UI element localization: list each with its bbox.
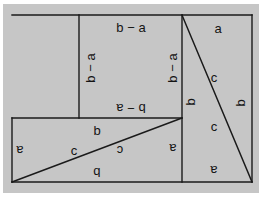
label-right-top-a: a — [214, 22, 221, 35]
label-right-bottom-a-text: a — [210, 164, 217, 177]
label-lower-left-a-text: a — [16, 144, 23, 157]
label-right-c-lower: c — [211, 120, 218, 133]
label-mid-b: b — [184, 98, 197, 105]
label-upper-right-b-minus-a: b − a — [166, 53, 179, 82]
label-right-c-upper-text: c — [211, 71, 218, 84]
label-lower-c-right: c — [117, 144, 124, 157]
label-far-right-b: b — [234, 99, 247, 106]
label-upper-right-b-minus-a-text: b − a — [166, 53, 179, 82]
label-lower-left-a: a — [16, 144, 23, 157]
label-lower-bottom-b: b — [93, 166, 100, 179]
label-far-right-b-text: b — [234, 99, 247, 106]
label-top-b-minus-a-text: b − a — [116, 21, 145, 34]
label-lower-inner-a: a — [169, 142, 176, 155]
label-top-b-minus-a: b − a — [116, 21, 145, 34]
label-upper-bottom-b-minus-a-text: b − a — [116, 102, 145, 115]
label-lower-top-b: b — [93, 124, 100, 137]
label-upper-left-b-minus-a-text: b − a — [84, 53, 97, 82]
label-lower-c-right-text: c — [117, 144, 124, 157]
geometric-proof-figure: b − ab − ab − ab − aaccbbaabaccb — [0, 0, 264, 198]
label-right-c-upper: c — [211, 71, 218, 84]
label-lower-inner-a-text: a — [169, 142, 176, 155]
label-right-bottom-a: a — [210, 164, 217, 177]
label-mid-b-text: b — [184, 98, 197, 105]
label-upper-left-b-minus-a: b − a — [84, 53, 97, 82]
label-right-top-a-text: a — [214, 22, 221, 35]
label-upper-bottom-b-minus-a: b − a — [116, 102, 145, 115]
label-lower-bottom-b-text: b — [93, 166, 100, 179]
label-lower-top-b-text: b — [93, 124, 100, 137]
label-lower-c-left: c — [71, 144, 78, 157]
label-right-c-lower-text: c — [211, 120, 218, 133]
label-lower-c-left-text: c — [71, 144, 78, 157]
line-group — [12, 15, 252, 182]
